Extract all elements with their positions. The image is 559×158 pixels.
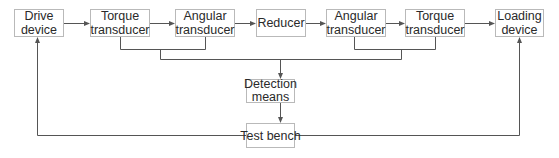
angular-transducer-2-box: Angular transducer <box>326 9 386 37</box>
drive-device-box: Drive device <box>14 9 64 37</box>
node-label: Reducer <box>257 16 304 30</box>
node-label: Torque <box>416 9 454 23</box>
right-sensor-bracket <box>355 37 436 50</box>
node-label: transducer <box>326 23 385 37</box>
test-bench-block-diagram: Drive device Torque transducer Angular t… <box>0 0 559 158</box>
node-label: device <box>21 23 57 37</box>
torque-transducer-2-box: Torque transducer <box>405 9 465 37</box>
node-label: Drive <box>24 9 53 23</box>
reducer-box: Reducer <box>256 9 306 37</box>
detection-means-box: Detection means <box>246 79 295 103</box>
node-label: Angular <box>183 9 226 23</box>
loading-device-box: Loading device <box>495 9 544 37</box>
arrow-testbench-to-drive <box>38 38 247 136</box>
angular-transducer-1-box: Angular transducer <box>175 9 235 37</box>
node-label: Test bench <box>240 129 300 143</box>
node-label: means <box>252 91 290 104</box>
node-label: transducer <box>175 23 234 37</box>
left-sensor-bracket <box>121 37 206 50</box>
node-label: Torque <box>101 9 139 23</box>
node-label: Loading <box>497 9 542 23</box>
test-bench-box: Test bench <box>246 123 295 148</box>
node-label: transducer <box>90 23 149 37</box>
torque-transducer-1-box: Torque transducer <box>90 9 150 37</box>
node-label: device <box>501 23 537 37</box>
node-label: transducer <box>405 23 464 37</box>
node-label: Angular <box>334 9 377 23</box>
arrow-testbench-to-loading <box>295 38 520 136</box>
